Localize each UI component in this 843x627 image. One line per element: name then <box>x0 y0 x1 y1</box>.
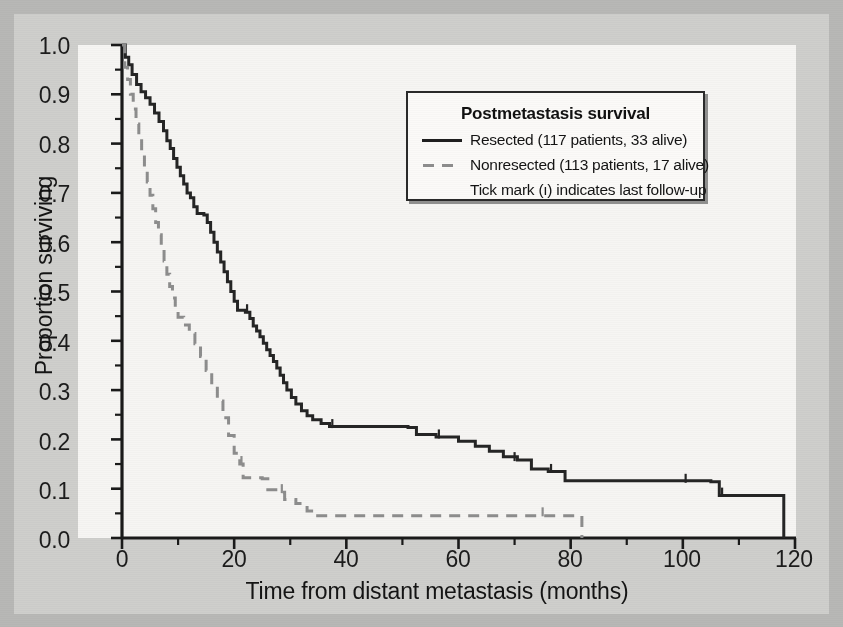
x-tick-label: 120 <box>764 546 824 573</box>
legend-solid-line-swatch <box>422 134 462 146</box>
legend-note: Tick mark (ı) indicates last follow-up <box>408 181 703 199</box>
x-tick-label: 40 <box>316 546 376 573</box>
legend-entry-label: Nonresected (113 patients, 17 alive) <box>470 156 709 174</box>
legend-note-label: Tick mark (ı) indicates last follow-up <box>470 181 706 199</box>
x-tick-label: 0 <box>92 546 152 573</box>
y-tick-label: 0.2 <box>22 429 70 456</box>
x-tick-label: 100 <box>652 546 712 573</box>
x-tick-label: 20 <box>204 546 264 573</box>
legend-dashed-line-swatch <box>422 159 462 171</box>
legend-entry-label: Resected (117 patients, 33 alive) <box>470 131 687 149</box>
y-tick-label: 1.0 <box>22 33 70 60</box>
legend-entry-resected: Resected (117 patients, 33 alive) <box>408 131 703 149</box>
x-tick-label: 80 <box>540 546 600 573</box>
y-tick-label: 0.1 <box>22 478 70 505</box>
x-axis-title: Time from distant metastasis (months) <box>78 578 796 605</box>
y-tick-label: 0.9 <box>22 82 70 109</box>
y-axis-title: Proportion surviving <box>31 146 58 406</box>
legend-title: Postmetastasis survival <box>408 104 703 124</box>
legend-entry-nonresected: Nonresected (113 patients, 17 alive) <box>408 156 703 174</box>
figure-root: 1.0 0.9 0.8 0.7 0.6 0.5 0.4 0.3 0.2 0.1 … <box>0 0 843 627</box>
chart-legend: Postmetastasis survival Resected (117 pa… <box>406 91 705 201</box>
y-tick-label: 0.0 <box>22 527 70 554</box>
x-tick-label: 60 <box>428 546 488 573</box>
